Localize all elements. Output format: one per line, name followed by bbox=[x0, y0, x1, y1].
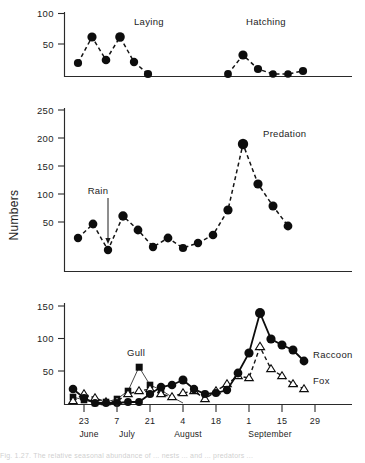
series-line-predation bbox=[78, 144, 288, 250]
month-label-july: July bbox=[119, 429, 135, 439]
panel-bottom-axes bbox=[65, 303, 353, 405]
three-panel-time-series-chart: 100 50 Laying Hatching bbox=[0, 0, 365, 463]
xtick-label-2: 21 bbox=[145, 416, 156, 426]
xtick-label-4: 18 bbox=[211, 416, 222, 426]
ytick-label-top-50: 50 bbox=[43, 39, 54, 50]
ytick-label-mid-250: 250 bbox=[37, 105, 54, 116]
label-fox: Fox bbox=[313, 375, 330, 386]
series-line-laying bbox=[78, 37, 148, 74]
series-markers-hatching bbox=[224, 50, 307, 78]
ytick-label-bot-100: 100 bbox=[37, 333, 54, 344]
month-label-june: June bbox=[79, 429, 98, 439]
series-line-fox bbox=[73, 347, 304, 402]
series-markers-fox bbox=[69, 342, 309, 404]
series-markers-laying bbox=[74, 32, 152, 78]
series-line-gull bbox=[73, 367, 183, 403]
ytick-label-top-100: 100 bbox=[37, 8, 54, 19]
month-label-august: August bbox=[174, 429, 202, 439]
x-axis-month-labels: June July August September bbox=[79, 429, 291, 439]
xtick-label-3: 4 bbox=[180, 416, 185, 426]
xtick-label-5: 1 bbox=[246, 416, 251, 426]
y-axis-title: Numbers bbox=[7, 190, 21, 241]
label-laying: Laying bbox=[134, 16, 164, 27]
ytick-label-mid-150: 150 bbox=[37, 161, 54, 172]
label-gull: Gull bbox=[127, 347, 145, 358]
label-hatching: Hatching bbox=[246, 16, 286, 27]
series-line-hatching bbox=[228, 55, 303, 74]
series-line-raccoon bbox=[73, 313, 304, 403]
xtick-label-0: 23 bbox=[79, 416, 90, 426]
xtick-label-1: 7 bbox=[114, 416, 119, 426]
xtick-label-7: 29 bbox=[310, 416, 321, 426]
month-label-september: September bbox=[248, 429, 291, 439]
panel-top-axes bbox=[65, 12, 353, 77]
panel-bottom: 150 100 50 Gull bbox=[37, 301, 353, 440]
figure-panel-group: 100 50 Laying Hatching bbox=[0, 0, 365, 463]
label-raccoon: Raccoon bbox=[313, 349, 353, 360]
panel-middle: 250 200 150 100 50 Numbers Predation Rai… bbox=[7, 105, 352, 272]
figure-caption: Fig. 1.27. The relative seasonal abundan… bbox=[0, 452, 365, 463]
ytick-label-bot-50: 50 bbox=[43, 366, 54, 377]
label-rain: Rain bbox=[88, 185, 109, 196]
ytick-label-mid-200: 200 bbox=[37, 133, 54, 144]
ytick-label-mid-100: 100 bbox=[37, 189, 54, 200]
series-markers-raccoon bbox=[69, 308, 309, 407]
x-axis-date-labels: 23 7 21 4 18 1 15 29 bbox=[79, 416, 321, 426]
label-predation: Predation bbox=[263, 128, 306, 139]
series-markers-predation bbox=[74, 139, 293, 254]
rain-arrow-head bbox=[105, 238, 110, 244]
xtick-label-6: 15 bbox=[277, 416, 288, 426]
ytick-label-mid-50: 50 bbox=[43, 217, 54, 228]
ytick-label-bot-150: 150 bbox=[37, 301, 54, 312]
panel-top: 100 50 Laying Hatching bbox=[37, 8, 352, 78]
